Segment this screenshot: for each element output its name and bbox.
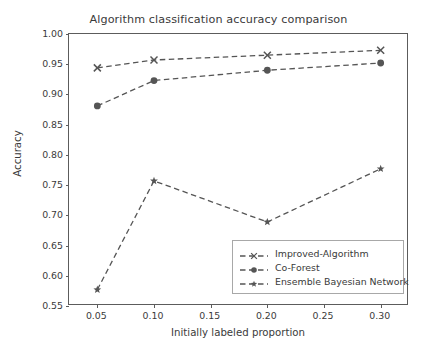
legend-item-label: Ensemble Bayesian Network	[269, 276, 409, 287]
chart-title: Algorithm classification accuracy compar…	[0, 13, 437, 26]
x-tick-mark	[211, 304, 212, 308]
series-line	[97, 63, 380, 106]
circle-marker-icon	[239, 261, 269, 273]
star-marker-icon	[239, 275, 269, 287]
star-marker	[263, 218, 271, 225]
x-marker-icon	[239, 247, 269, 259]
legend-item: Improved-Algorithm	[239, 246, 396, 260]
chart-figure: Algorithm classification accuracy compar…	[0, 0, 437, 349]
x-tick-label: 0.25	[313, 310, 334, 321]
y-tick-label: 0.90	[42, 88, 63, 99]
legend-item: Co-Forest	[239, 260, 396, 274]
y-tick-mark	[66, 64, 70, 65]
o-marker	[94, 103, 101, 110]
x-tick-mark	[324, 304, 325, 308]
series-co-forest	[94, 60, 384, 110]
o-marker	[151, 77, 158, 84]
y-tick-mark	[66, 185, 70, 186]
series-improved-algorithm	[94, 47, 384, 72]
y-tick-mark	[66, 246, 70, 247]
x-tick-label: 0.20	[256, 310, 277, 321]
x-tick-label: 0.10	[143, 310, 164, 321]
x-tick-label: 0.15	[199, 310, 220, 321]
x-tick-mark	[97, 304, 98, 308]
legend-item: Ensemble Bayesian Network	[239, 274, 396, 288]
star-marker	[93, 286, 101, 293]
x-tick-label: 0.05	[86, 310, 107, 321]
y-tick-label: 1.00	[42, 28, 63, 39]
o-marker	[377, 60, 384, 67]
o-marker	[264, 67, 271, 74]
x-tick-label: 0.30	[369, 310, 390, 321]
y-tick-mark	[66, 215, 70, 216]
y-tick-label: 0.60	[42, 269, 63, 280]
star-marker	[251, 281, 257, 287]
y-tick-label: 0.80	[42, 148, 63, 159]
y-tick-mark	[66, 34, 70, 35]
y-tick-mark	[66, 94, 70, 95]
y-tick-label: 0.70	[42, 209, 63, 220]
y-tick-mark	[66, 155, 70, 156]
star-marker	[377, 165, 385, 172]
star-marker	[150, 177, 158, 184]
y-axis-label: Accuracy	[12, 94, 23, 214]
y-tick-mark	[66, 276, 70, 277]
x-tick-mark	[154, 304, 155, 308]
x-tick-mark	[381, 304, 382, 308]
x-axis-label: Initially labeled proportion	[68, 327, 408, 338]
y-tick-label: 0.75	[42, 179, 63, 190]
y-tick-mark	[66, 306, 70, 307]
y-tick-label: 0.95	[42, 58, 63, 69]
y-tick-label: 0.65	[42, 239, 63, 250]
y-tick-label: 0.55	[42, 300, 63, 311]
legend-item-label: Co-Forest	[269, 262, 320, 273]
y-tick-label: 0.85	[42, 118, 63, 129]
x-tick-mark	[267, 304, 268, 308]
chart-legend: Improved-Algorithm Co-Forest Ensemble Ba…	[232, 240, 404, 294]
o-marker	[251, 267, 257, 273]
legend-item-label: Improved-Algorithm	[269, 248, 369, 259]
y-tick-mark	[66, 125, 70, 126]
